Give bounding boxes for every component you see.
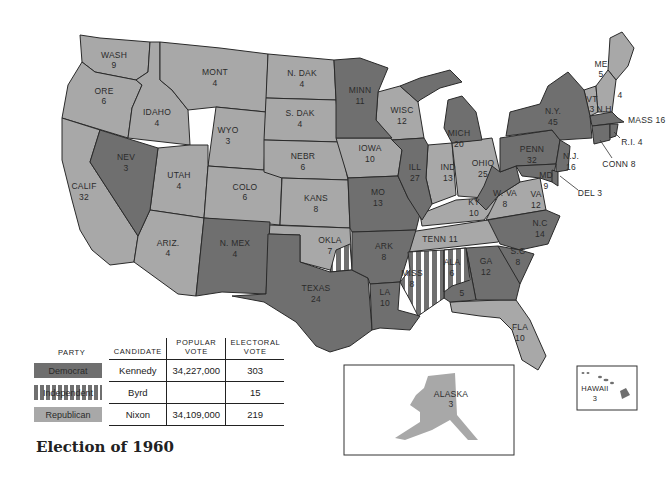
svg-text:S.C: S.C [511, 246, 526, 256]
header-electoral-vote: ELECTORAL VOTE [226, 338, 284, 360]
svg-text:9: 9 [112, 60, 117, 70]
svg-text:N.C: N.C [532, 218, 547, 228]
svg-text:MONT: MONT [202, 67, 228, 77]
svg-text:HAWAII: HAWAII [581, 384, 608, 393]
label-tenn: TENN 11 [422, 234, 458, 244]
svg-text:7: 7 [328, 246, 333, 256]
swatch-democrat: Democrat [34, 363, 102, 378]
svg-text:FLA: FLA [512, 322, 528, 332]
svg-text:VA: VA [530, 189, 541, 199]
svg-text:COLO: COLO [233, 182, 258, 192]
state-wyo [208, 107, 266, 170]
svg-text:10: 10 [365, 154, 375, 164]
svg-text:MICH: MICH [448, 128, 471, 138]
svg-text:13: 13 [443, 173, 453, 183]
callout-del [560, 176, 578, 190]
legend: PARTY CANDIDATE POPULAR VOTE ELECTORAL V… [34, 338, 284, 426]
svg-text:4: 4 [298, 119, 303, 129]
label-del: DEL 3 [578, 188, 602, 198]
svg-text:12: 12 [397, 116, 407, 126]
svg-text:20: 20 [454, 139, 464, 149]
svg-text:ORE: ORE [94, 86, 113, 96]
svg-text:4: 4 [233, 249, 238, 259]
svg-text:25: 25 [478, 169, 488, 179]
svg-text:6: 6 [301, 162, 306, 172]
svg-text:3: 3 [124, 163, 129, 173]
legend-row-independent: Independent Byrd 15 [34, 382, 284, 404]
svg-text:MISS: MISS [401, 268, 423, 278]
state-ri [610, 124, 618, 138]
svg-text:IDAHO: IDAHO [143, 107, 171, 117]
svg-text:WYO: WYO [218, 125, 239, 135]
svg-text:11: 11 [355, 96, 364, 106]
svg-text:IOWA: IOWA [358, 143, 381, 153]
svg-text:8: 8 [314, 204, 319, 214]
state-me [608, 32, 634, 80]
svg-text:S. DAK: S. DAK [285, 108, 314, 118]
svg-text:4: 4 [618, 90, 623, 100]
state-kans [280, 178, 350, 228]
svg-text:10: 10 [380, 298, 390, 308]
svg-text:N.J.: N.J. [563, 151, 579, 161]
svg-text:MO: MO [371, 187, 385, 197]
swatch-republican: Republican [34, 407, 102, 422]
svg-text:8: 8 [382, 252, 387, 262]
svg-text:WISC: WISC [391, 105, 414, 115]
svg-text:ARIZ.: ARIZ. [157, 238, 180, 248]
svg-text:12: 12 [531, 200, 541, 210]
svg-text:24: 24 [311, 294, 321, 304]
svg-text:OKLA: OKLA [318, 235, 342, 245]
svg-text:MINN: MINN [349, 85, 372, 95]
svg-text:IND: IND [440, 162, 455, 172]
svg-text:4: 4 [155, 118, 160, 128]
svg-text:10: 10 [515, 333, 525, 343]
svg-text:W. VA: W. VA [493, 188, 517, 198]
svg-text:14: 14 [535, 229, 545, 239]
legend-table: PARTY CANDIDATE POPULAR VOTE ELECTORAL V… [34, 338, 284, 426]
svg-text:6: 6 [243, 192, 248, 202]
svg-text:4: 4 [166, 248, 171, 258]
svg-text:NEV: NEV [117, 152, 135, 162]
svg-text:8: 8 [410, 279, 415, 289]
svg-text:GA: GA [480, 256, 493, 266]
svg-text:10: 10 [469, 208, 479, 218]
svg-text:PENN: PENN [520, 144, 544, 154]
svg-text:4: 4 [177, 181, 182, 191]
svg-text:3: 3 [590, 104, 595, 114]
state-fla [450, 300, 546, 370]
svg-text:4: 4 [300, 79, 305, 89]
header-party: PARTY [34, 338, 109, 360]
svg-text:12: 12 [481, 267, 491, 277]
svg-text:ARK: ARK [375, 241, 393, 251]
svg-text:6: 6 [102, 96, 107, 106]
label-conn: CONN 8 [602, 159, 635, 169]
svg-text:MD: MD [539, 170, 553, 180]
svg-text:UTAH: UTAH [167, 170, 190, 180]
svg-text:KANS: KANS [304, 193, 328, 203]
label-ri: R.I. 4 [621, 137, 643, 147]
legend-row-republican: Republican Nixon 34,109,000 219 [34, 404, 284, 426]
svg-text:N. DAK: N. DAK [287, 68, 317, 78]
svg-text:LA: LA [380, 287, 391, 297]
swatch-independent: Independent [34, 385, 102, 400]
svg-text:CALIF: CALIF [71, 181, 96, 191]
label-mass: MASS 16 [628, 115, 665, 125]
svg-text:8: 8 [516, 257, 521, 267]
svg-text:27: 27 [410, 173, 420, 183]
svg-text:VT: VT [586, 94, 597, 104]
legend-row-democrat: Democrat Kennedy 34,227,000 303 [34, 360, 284, 382]
svg-text:KY: KY [468, 197, 480, 207]
svg-text:N.Y.: N.Y. [545, 106, 561, 116]
svg-text:9: 9 [544, 181, 549, 191]
svg-text:45: 45 [548, 117, 558, 127]
svg-text:5: 5 [460, 288, 465, 298]
svg-text:3: 3 [593, 394, 597, 403]
svg-text:8: 8 [503, 199, 508, 209]
svg-text:32: 32 [527, 155, 537, 165]
label-wash: WASH [101, 50, 127, 60]
header-popular-vote: POPULAR VOTE [167, 338, 226, 360]
map-title: Election of 1960 [36, 438, 174, 456]
svg-text:3: 3 [449, 399, 454, 409]
svg-text:13: 13 [373, 198, 383, 208]
svg-text:N. MEX: N. MEX [220, 238, 251, 248]
